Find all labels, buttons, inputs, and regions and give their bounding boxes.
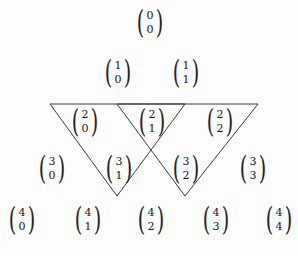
binomial-n: 0 [147,10,154,22]
binomial-k: 1 [116,170,123,182]
binomial-coefficient: (33) [237,156,268,181]
binomial-stack: 44 [275,207,284,232]
binomial-stack: 00 [146,10,155,35]
binomial-stack: 11 [182,60,191,85]
binomial-n: 4 [85,207,92,219]
left-paren-glyph: ( [72,109,80,134]
binomial-coefficient: (43) [200,207,231,232]
binomial-coefficient: (42) [135,207,166,232]
binomial-n: 1 [183,60,190,72]
binomial-n: 4 [19,207,26,219]
binomial-stack: 30 [48,156,57,181]
binomial-n: 4 [148,207,155,219]
left-paren-glyph: ( [240,156,248,181]
left-paren-glyph: ( [173,156,181,181]
left-paren-glyph: ( [207,109,215,134]
binomial-coefficient: (41) [72,207,103,232]
binomial-stack: 22 [216,109,225,134]
binomial-n: 3 [49,156,56,168]
binomial-n: 2 [217,109,224,121]
binomial-stack: 40 [18,207,27,232]
binomial-coefficient: (11) [170,60,201,85]
left-paren-glyph: ( [106,156,114,181]
binomial-coefficient: (30) [36,156,67,181]
binomial-k: 0 [19,221,26,233]
binomial-stack: 42 [147,207,156,232]
right-paren-glyph: ) [226,109,234,134]
binomial-stack: 31 [115,156,124,181]
binomial-k: 0 [115,74,122,86]
binomial-n: 2 [82,109,89,121]
binomial-k: 4 [276,221,283,233]
binomial-coefficient: (10) [102,60,133,85]
binomial-k: 3 [213,221,220,233]
binomial-stack: 10 [114,60,123,85]
right-paren-glyph: ) [285,207,293,232]
right-paren-glyph: ) [124,60,132,85]
binomial-n: 3 [116,156,123,168]
right-paren-glyph: ) [28,207,36,232]
left-paren-glyph: ( [139,109,147,134]
binomial-coefficient: (40) [6,207,37,232]
binomial-coefficient: (31) [103,156,134,181]
left-paren-glyph: ( [9,207,17,232]
binomial-k: 1 [85,221,92,233]
binomial-coefficient: (44) [263,207,294,232]
binomial-n: 1 [115,60,122,72]
left-paren-glyph: ( [75,207,83,232]
binomial-stack: 41 [84,207,93,232]
binomial-coefficient: (22) [204,109,235,134]
binomial-n: 4 [276,207,283,219]
right-paren-glyph: ) [157,207,165,232]
binomial-k: 0 [147,24,154,36]
right-paren-glyph: ) [259,156,267,181]
binomial-coefficient: (20) [69,109,100,134]
binomial-stack: 43 [212,207,221,232]
right-paren-glyph: ) [222,207,230,232]
binomial-stack: 20 [81,109,90,134]
binomial-stack: 21 [148,109,157,134]
binomial-k: 2 [183,170,190,182]
left-paren-glyph: ( [173,60,181,85]
right-paren-glyph: ) [91,109,99,134]
right-paren-glyph: ) [192,60,200,85]
pascal-triangle-figure: (00)(10)(11)(20)(21)(22)(30)(31)(32)(33)… [0,0,298,256]
left-paren-glyph: ( [266,207,274,232]
right-paren-glyph: ) [58,156,66,181]
binomial-n: 3 [250,156,257,168]
left-paren-glyph: ( [105,60,113,85]
left-paren-glyph: ( [203,207,211,232]
binomial-n: 3 [183,156,190,168]
binomial-k: 1 [149,123,156,135]
binomial-k: 1 [183,74,190,86]
right-paren-glyph: ) [94,207,102,232]
binomial-k: 0 [49,170,56,182]
right-paren-glyph: ) [125,156,133,181]
binomial-k: 2 [217,123,224,135]
binomial-n: 4 [213,207,220,219]
binomial-k: 2 [148,221,155,233]
binomial-k: 3 [250,170,257,182]
right-paren-glyph: ) [156,10,164,35]
left-paren-glyph: ( [138,207,146,232]
binomial-coefficient: (32) [170,156,201,181]
binomial-stack: 32 [182,156,191,181]
binomial-coefficient: (21) [136,109,167,134]
binomial-n: 2 [149,109,156,121]
binomial-k: 0 [82,123,89,135]
right-paren-glyph: ) [158,109,166,134]
binomial-coefficient: (00) [134,10,165,35]
right-paren-glyph: ) [192,156,200,181]
left-paren-glyph: ( [39,156,47,181]
binomial-stack: 33 [249,156,258,181]
left-paren-glyph: ( [137,10,145,35]
